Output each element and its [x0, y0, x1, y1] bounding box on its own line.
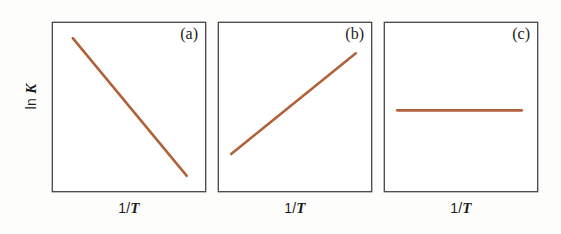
panel-label-a: (a)	[180, 24, 198, 44]
x-axis-label-b-variable: T	[296, 200, 305, 216]
panel-label-c: (c)	[512, 24, 530, 44]
plot-frame-b: (b)	[218, 22, 372, 192]
y-axis-label-variable: K	[23, 83, 39, 93]
x-axis-label-a-variable: T	[130, 200, 139, 216]
y-axis-label: ln K	[14, 0, 48, 192]
plot-frame-c: (c)	[384, 22, 538, 192]
x-axis-label-c-numerator: 1/	[450, 200, 462, 216]
x-axis-label-c: 1/T	[384, 200, 538, 217]
panel-a: (a) 1/T	[52, 22, 206, 218]
panel-row: (a) 1/T (b) 1/T (c) 1/T	[52, 22, 538, 218]
panel-b: (b) 1/T	[218, 22, 372, 218]
x-axis-label-b-numerator: 1/	[284, 200, 296, 216]
panel-c: (c) 1/T	[384, 22, 538, 218]
x-axis-label-a-numerator: 1/	[118, 200, 130, 216]
plot-line-a	[53, 23, 205, 191]
panel-label-b: (b)	[345, 24, 364, 44]
plot-line-b	[219, 23, 371, 191]
figure-three-panel-arrhenius-plots: ln K (a) 1/T (b) 1/T	[0, 0, 561, 234]
y-axis-label-prefix: ln	[23, 93, 39, 109]
x-axis-label-c-variable: T	[462, 200, 471, 216]
x-axis-label-b: 1/T	[218, 200, 372, 217]
plot-frame-a: (a)	[52, 22, 206, 192]
plot-line-c	[385, 23, 537, 191]
x-axis-label-a: 1/T	[52, 200, 206, 217]
